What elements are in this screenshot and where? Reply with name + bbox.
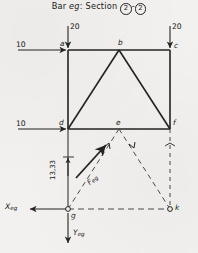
load-label-horizontal-lower: 10 — [16, 119, 26, 128]
node-label-e: e — [116, 118, 121, 127]
node-label-c: c — [174, 41, 178, 50]
joint-marker-g — [66, 207, 71, 212]
dashed-line-eg — [68, 129, 119, 209]
diagonal-member-bf — [119, 50, 170, 129]
node-label-b: b — [118, 38, 123, 47]
diagonal-member-bd — [68, 50, 119, 129]
load-label-top-left: 20 — [70, 22, 80, 31]
node-label-k: k — [175, 203, 179, 212]
dimension-label-dg: 13,33 — [49, 160, 57, 180]
load-label-top-right: 20 — [172, 22, 182, 31]
truss-drawing — [0, 0, 198, 253]
axis-label-y-subscript: eg — [78, 231, 85, 237]
load-label-horizontal-upper: 10 — [16, 40, 26, 49]
axis-label-y: Yeg — [73, 228, 85, 237]
axis-label-x: Xeg — [5, 202, 17, 211]
diagram-canvas: Bar eg: Section 2-2 — [0, 0, 198, 253]
node-label-g: g — [71, 211, 76, 220]
axis-label-x-subscript: eg — [10, 205, 17, 211]
dashed-line-ek — [119, 129, 170, 209]
node-label-a: a — [60, 39, 65, 48]
angle-tick-right — [129, 142, 135, 148]
joint-marker-k — [168, 207, 173, 212]
node-label-d: d — [59, 118, 64, 127]
node-label-f: f — [173, 118, 176, 127]
